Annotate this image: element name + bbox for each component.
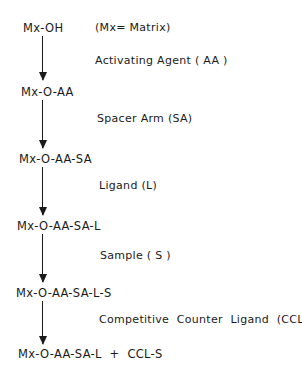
arrow-down-icon — [42, 36, 43, 80]
reagent-sample: Sample ( S ) — [100, 250, 171, 262]
reagent-spacer-arm: Spacer Arm (SA) — [97, 113, 192, 125]
product-final: Mx-O-AA-SA-L + CCL-S — [18, 348, 163, 360]
product-sample-complex: Mx-O-AA-SA-L-S — [16, 287, 112, 299]
matrix-note: (Mx= Matrix) — [95, 22, 171, 34]
arrow-down-icon — [42, 301, 43, 344]
product-ligand-matrix: Mx-O-AA-SA-L — [17, 220, 101, 232]
reagent-ligand: Ligand (L) — [99, 180, 157, 192]
product-spacer-matrix: Mx-O-AA-SA — [19, 153, 92, 165]
product-matrix-oh: Mx-OH — [23, 22, 63, 34]
product-activated-matrix: Mx-O-AA — [21, 86, 74, 98]
reagent-activating-agent: Activating Agent ( AA ) — [95, 55, 228, 67]
reagent-counter-ligand: Competitive Counter Ligand (CCL) — [99, 314, 302, 326]
arrow-down-icon — [42, 234, 43, 282]
arrow-down-icon — [42, 100, 43, 148]
arrow-down-icon — [42, 167, 43, 215]
